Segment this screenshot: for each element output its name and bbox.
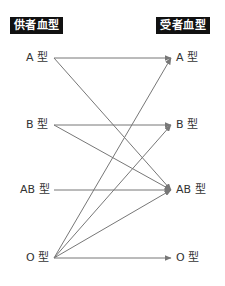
arrow-o-to-ab: [54, 190, 171, 258]
arrow-a-to-ab: [54, 58, 171, 190]
compatibility-arrows: [0, 0, 225, 286]
arrow-o-to-a: [54, 58, 171, 258]
arrow-o-to-b: [54, 125, 171, 258]
